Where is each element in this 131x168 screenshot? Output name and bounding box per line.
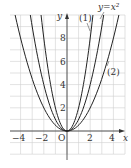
grid <box>10 15 125 154</box>
curve-label-main: y=x² <box>97 2 120 12</box>
parabola-chart: x y O −4 −2 2 4 2 4 6 8 y=x² (1) (2) <box>0 0 131 168</box>
origin-label: O <box>58 133 65 143</box>
tick-x-neg2: −2 <box>35 133 48 143</box>
curve-label-1: (1) <box>79 13 92 23</box>
curve-label-2: (2) <box>107 67 120 77</box>
axes <box>10 13 125 160</box>
y-axis-arrow-icon <box>65 13 69 19</box>
tick-y-6: 6 <box>60 57 66 67</box>
tick-y-4: 4 <box>60 80 66 90</box>
curve-1-leader <box>87 23 90 31</box>
tick-y-8: 8 <box>60 33 66 43</box>
x-axis-label: x <box>123 133 128 143</box>
tick-x-neg4: −4 <box>12 133 26 143</box>
y-axis-label: y <box>56 11 63 21</box>
tick-y-2: 2 <box>60 103 66 113</box>
tick-x-2: 2 <box>87 133 93 143</box>
tick-x-4: 4 <box>109 133 115 143</box>
